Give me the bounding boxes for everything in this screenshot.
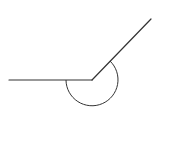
upper-right-ray (92, 19, 151, 80)
reflex-angle-diagram (0, 0, 170, 152)
reflex-angle-arc (66, 61, 118, 106)
